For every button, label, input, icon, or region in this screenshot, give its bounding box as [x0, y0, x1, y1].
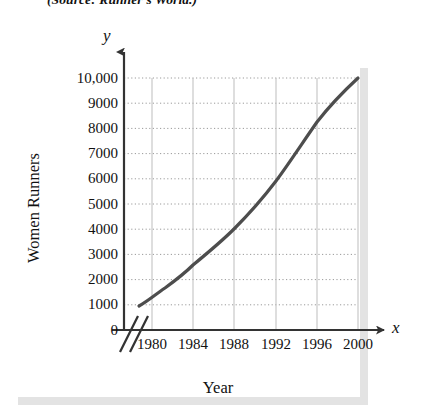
x-axis-tick-labels: 1980 1984 1988 1992 1996 2000 [0, 0, 433, 419]
x-tick-2000: 2000 [332, 337, 384, 352]
x-axis-title: Year [108, 378, 328, 398]
y-axis-variable-label: y [103, 26, 111, 46]
y-axis-title: Women Runners [24, 108, 44, 308]
line-chart-figure: 10,000 9000 8000 7000 6000 5000 4000 300… [0, 0, 433, 419]
x-axis-variable-label: x [392, 318, 400, 338]
